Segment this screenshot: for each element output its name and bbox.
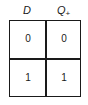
header-d: D	[23, 4, 31, 16]
header-q-label: Q	[57, 4, 66, 16]
table-grid: 0 0 1 1	[9, 20, 81, 97]
row-divider	[10, 58, 80, 60]
header-q-next: Q+	[57, 4, 70, 18]
cell-r0-q: 0	[46, 33, 82, 44]
cell-r0-d: 0	[10, 33, 46, 44]
header-d-label: D	[23, 4, 31, 16]
cell-r1-d: 1	[10, 72, 46, 83]
cell-r1-q: 1	[46, 72, 82, 83]
header-q-subscript: +	[66, 9, 71, 18]
